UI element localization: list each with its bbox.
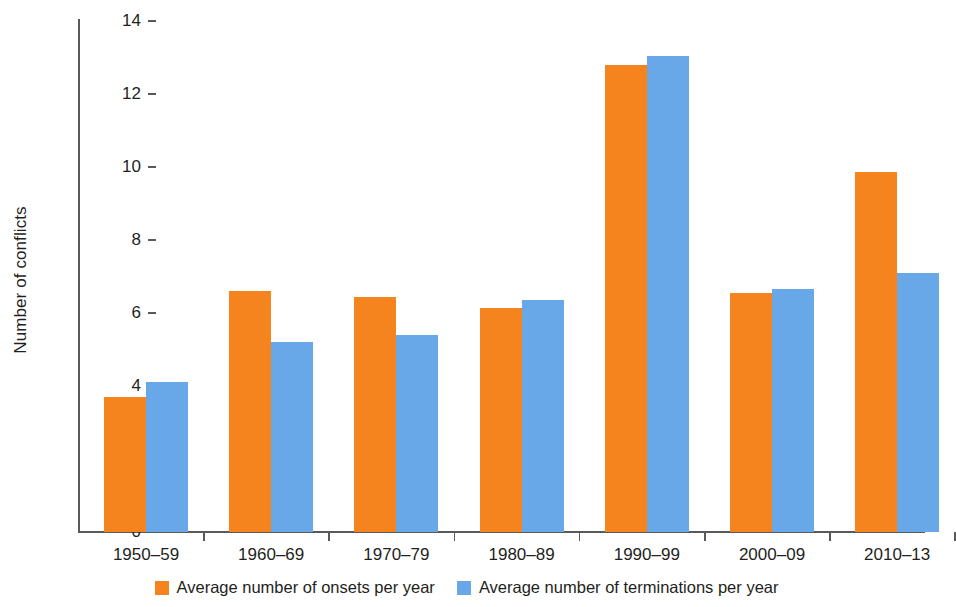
bar-terminations	[897, 273, 939, 532]
x-tick-label: 1960–69	[238, 545, 304, 565]
bar-onsets	[855, 172, 897, 532]
legend-item: Average number of terminations per year	[457, 578, 779, 597]
bars-container	[0, 0, 933, 532]
bar-terminations	[522, 300, 564, 532]
bar-terminations	[271, 342, 313, 532]
x-tick-mark	[203, 532, 205, 541]
bar-onsets	[354, 297, 396, 532]
legend-label: Average number of onsets per year	[177, 578, 435, 597]
bar-terminations	[146, 382, 188, 532]
bar-terminations	[772, 289, 814, 532]
x-tick-label: 1980–89	[489, 545, 555, 565]
bar-onsets	[605, 65, 647, 532]
legend-label: Average number of terminations per year	[479, 578, 779, 597]
x-tick-label: 2000–09	[739, 545, 805, 565]
x-tick-label: 1970–79	[363, 545, 429, 565]
x-tick-label: 1950–59	[113, 545, 179, 565]
bar-onsets	[480, 308, 522, 532]
bar-terminations	[647, 56, 689, 532]
x-tick-mark	[328, 532, 330, 541]
x-tick-label: 2010–13	[864, 545, 930, 565]
legend-item: Average number of onsets per year	[155, 578, 435, 597]
x-tick-label: 1990–99	[614, 545, 680, 565]
bar-onsets	[730, 293, 772, 532]
chart-legend: Average number of onsets per yearAverage…	[0, 578, 933, 597]
legend-swatch-terminations-icon	[457, 581, 471, 595]
x-tick-mark	[454, 532, 456, 541]
x-tick-mark	[579, 532, 581, 541]
x-tick-mark	[829, 532, 831, 541]
bar-terminations	[396, 335, 438, 532]
x-tick-mark	[704, 532, 706, 541]
bar-onsets	[104, 397, 146, 532]
legend-swatch-onsets-icon	[155, 581, 169, 595]
bar-onsets	[229, 291, 271, 532]
